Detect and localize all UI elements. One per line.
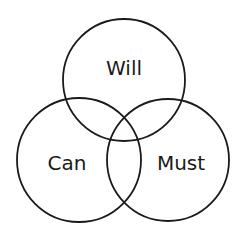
venn-diagram-canvas: Will Can Must bbox=[0, 0, 244, 238]
label-will: Will bbox=[106, 56, 142, 80]
circle-will bbox=[63, 19, 185, 141]
label-must: Must bbox=[157, 151, 205, 175]
label-can: Can bbox=[48, 151, 87, 175]
venn-diagram: Will Can Must bbox=[0, 0, 244, 238]
